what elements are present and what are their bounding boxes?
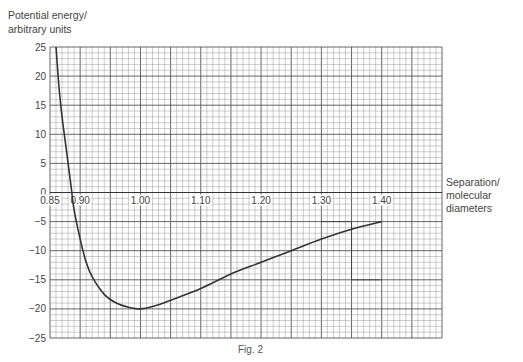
y-tick-label: −25 <box>29 333 46 344</box>
y-tick-label: −20 <box>29 303 46 314</box>
x-tick-label: 1.10 <box>191 195 211 206</box>
y-tick-label: 5 <box>40 158 46 169</box>
y-tick-label: 25 <box>35 42 47 53</box>
x-axis-title-line-2: molecular <box>446 189 500 202</box>
x-tick-label: 1.20 <box>251 195 271 206</box>
x-tick-label: 0.85 <box>40 195 60 206</box>
y-tick-label: 20 <box>35 71 47 82</box>
y-tick-label: −10 <box>29 245 46 256</box>
chart-plot-area: 2520151050−5−10−15−20−25 0.850.901.001.1… <box>0 0 523 362</box>
y-tick-label: −5 <box>35 216 47 227</box>
y-axis-ticks: 2520151050−5−10−15−20−25 <box>29 42 46 344</box>
x-axis-title-line-1: Separation/ <box>446 176 500 189</box>
y-tick-label: 10 <box>35 129 47 140</box>
x-axis-title-line-3: diameters <box>446 202 500 215</box>
figure-caption: Fig. 2 <box>238 344 263 355</box>
y-tick-label: 15 <box>35 100 47 111</box>
grid <box>50 47 442 338</box>
x-axis-title: Separation/ molecular diameters <box>446 176 500 215</box>
x-tick-label: 1.40 <box>372 195 392 206</box>
x-tick-label: 1.00 <box>131 195 151 206</box>
x-tick-label: 1.30 <box>312 195 332 206</box>
y-tick-label: −15 <box>29 274 46 285</box>
